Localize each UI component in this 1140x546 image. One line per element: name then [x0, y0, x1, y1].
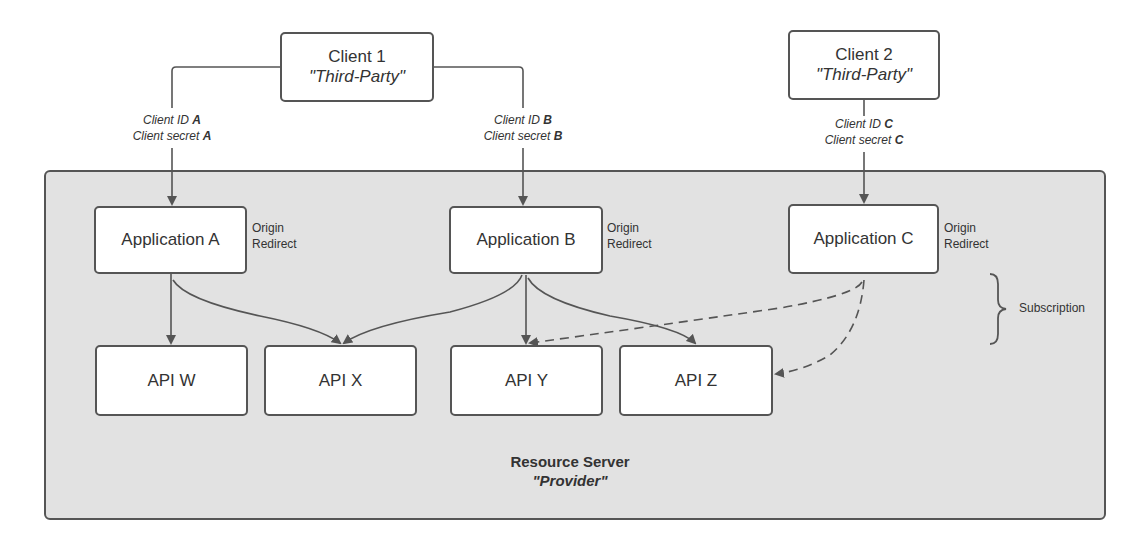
client-id-label-c: Client ID	[835, 117, 881, 131]
client-id-label-a: Client ID	[143, 113, 189, 127]
dashed-arrow-app-c-to-api-z	[776, 280, 864, 374]
application-b-box: Application B	[449, 206, 603, 274]
resource-server-role: "Provider"	[0, 471, 1140, 490]
client-1-box: Client 1 "Third-Party"	[280, 32, 434, 102]
api-y-box: API Y	[450, 345, 603, 416]
application-b-origin: Origin	[607, 220, 652, 236]
client-secret-key-c: C	[895, 133, 904, 147]
client-1-role: "Third-Party"	[309, 67, 405, 87]
client-2-role: "Third-Party"	[816, 65, 912, 85]
credentials-b: Client ID B Client secret B	[463, 112, 583, 144]
client-id-key-b: B	[543, 113, 552, 127]
api-x-box: API X	[264, 345, 417, 416]
api-w-name: API W	[147, 371, 195, 391]
resource-server-title: Resource Server	[0, 452, 1140, 471]
client-secret-label-c: Client secret	[825, 133, 892, 147]
application-a-origin: Origin	[252, 220, 297, 236]
subscription-brace-icon	[990, 274, 1006, 344]
api-x-name: API X	[319, 371, 362, 391]
application-b-name: Application B	[476, 230, 575, 250]
client-id-label-b: Client ID	[494, 113, 540, 127]
application-a-box: Application A	[94, 206, 247, 274]
application-a-redirect: Redirect	[252, 236, 297, 252]
dashed-arrow-app-c-to-api-y	[530, 282, 862, 343]
arrow-app-a-to-api-x	[173, 280, 340, 343]
api-z-name: API Z	[675, 371, 718, 391]
client-1-name: Client 1	[328, 47, 386, 67]
api-z-box: API Z	[619, 345, 773, 416]
api-y-name: API Y	[505, 371, 548, 391]
client-secret-label-a: Client secret	[133, 129, 200, 143]
application-c-box: Application C	[788, 204, 939, 274]
application-c-origin: Origin	[944, 220, 989, 236]
connector-client1-left	[172, 67, 280, 108]
credentials-c: Client ID C Client secret C	[804, 116, 924, 148]
application-a-name: Application A	[121, 230, 219, 250]
arrow-app-b-to-api-z	[528, 278, 695, 343]
api-w-box: API W	[95, 345, 248, 416]
subscription-label: Subscription	[1019, 300, 1085, 316]
client-2-box: Client 2 "Third-Party"	[788, 30, 940, 100]
connector-client1-right	[433, 67, 523, 108]
application-c-redirect: Redirect	[944, 236, 989, 252]
application-c-notes: Origin Redirect	[944, 220, 989, 252]
client-id-key-a: A	[192, 113, 201, 127]
client-secret-key-b: B	[554, 129, 563, 143]
client-2-name: Client 2	[835, 45, 893, 65]
application-b-notes: Origin Redirect	[607, 220, 652, 252]
resource-server-label: Resource Server "Provider"	[0, 452, 1140, 490]
arrow-app-b-to-api-x	[344, 275, 522, 343]
client-secret-key-a: A	[203, 129, 212, 143]
client-secret-label-b: Client secret	[484, 129, 551, 143]
application-c-name: Application C	[813, 229, 913, 249]
application-b-redirect: Redirect	[607, 236, 652, 252]
credentials-a: Client ID A Client secret A	[112, 112, 232, 144]
application-a-notes: Origin Redirect	[252, 220, 297, 252]
client-id-key-c: C	[884, 117, 893, 131]
